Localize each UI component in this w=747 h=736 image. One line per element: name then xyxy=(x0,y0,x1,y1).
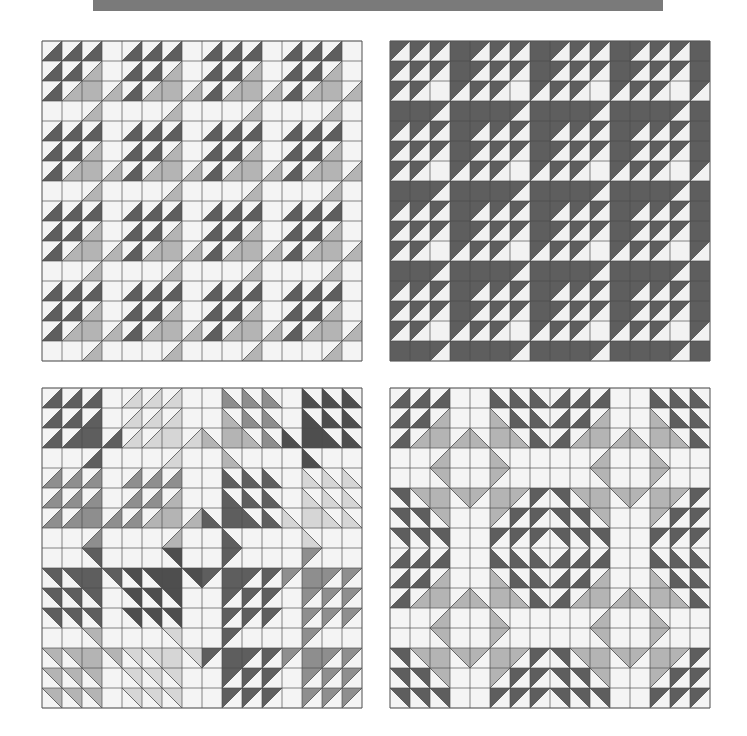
quilt-panel-bottom-left-graphic xyxy=(41,387,363,709)
top-banner xyxy=(93,0,663,11)
quilt-panel-bottom-left xyxy=(41,387,363,709)
quilt-panel-top-left xyxy=(41,40,363,362)
quilt-panel-top-left-graphic xyxy=(41,40,363,362)
quilt-panel-top-right xyxy=(389,40,711,362)
quilt-panel-bottom-right-graphic xyxy=(389,387,711,709)
quilt-panel-bottom-right xyxy=(389,387,711,709)
quilt-panel-top-right-graphic xyxy=(389,40,711,362)
